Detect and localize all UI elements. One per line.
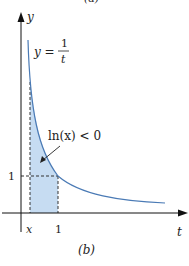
y-axis-label: y [26, 10, 34, 24]
annotation-ln-negative: ln(x) < 0 [48, 129, 101, 143]
tick-label-t-one: 1 [55, 223, 62, 236]
reciprocal-area-diagram: (a) y t x 1 1 y = 1 t ln(x) < 0 (b) [0, 0, 189, 266]
curve-label-numerator: 1 [61, 37, 68, 50]
top-caption-partial: (a) [84, 0, 99, 5]
tick-label-x: x [26, 223, 33, 236]
shaded-region [30, 82, 58, 213]
curve-label-denominator: t [61, 53, 66, 66]
x-axis-label: t [177, 225, 182, 239]
figure-caption: (b) [78, 243, 95, 257]
tick-label-y-one: 1 [8, 170, 15, 183]
x-axis-arrow-icon [178, 210, 188, 217]
y-axis-arrow-icon [18, 12, 25, 22]
curve-label-lhs: y = [33, 45, 55, 59]
